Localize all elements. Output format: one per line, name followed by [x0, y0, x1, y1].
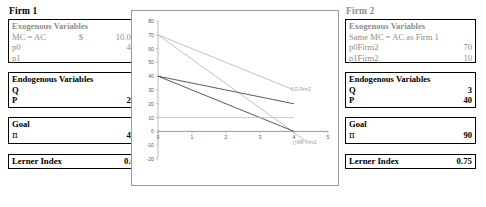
y-tick-label: 10 [148, 115, 154, 121]
x-tick-label: 1 [191, 134, 194, 140]
firm1-profit-label: π [12, 130, 18, 141]
series-line [158, 35, 306, 141]
y-tick-label: 70 [148, 32, 154, 38]
y-tick-label: 40 [148, 73, 154, 79]
firm2-p-value: 40 [463, 95, 472, 106]
firm2-lerner-box: Lerner Index 0.75 [345, 154, 476, 169]
firm2-profit-label: π [349, 130, 355, 141]
x-tick-label: 5 [327, 134, 330, 140]
firm1-title: Firm 1 [9, 6, 139, 17]
firm2-q-value: 3 [468, 85, 472, 96]
firm2-endogenous-header-label: Endogenous Variables [349, 74, 430, 85]
chart-svg: 80706050403020100-10-20 012345 D Firm2MR… [132, 11, 338, 185]
y-tick-label: 0 [151, 128, 154, 134]
firm2-exogenous-row: Same MC = AC as Firm 1 [349, 32, 472, 43]
firm1-goal-header-label: Goal [12, 119, 30, 130]
y-tick-label: 50 [148, 59, 154, 65]
series-label-group: D Firm2 [291, 87, 311, 92]
firm1-exogenous-header-label: Exogenous Variables [12, 21, 88, 32]
firm1-p0-label: p0 [12, 42, 21, 53]
firm2-endogenous-row: P 40 [349, 95, 472, 106]
y-tick-label: 80 [148, 18, 154, 24]
chart-x-axis-ticks: 012345 [157, 131, 330, 140]
firm2-p0-label: p0Firm2 [349, 42, 379, 53]
firm1-p-label: P [12, 95, 17, 106]
firm1-endogenous-row: Q 3 [12, 85, 135, 96]
firm2-profit-value: 90 [463, 130, 472, 141]
y-tick-label: 20 [148, 101, 154, 107]
firm1-goal-header: Goal [12, 119, 135, 130]
firm2-goal-row: π 90 [349, 130, 472, 141]
firm2-endogenous-row: Q 3 [349, 85, 472, 96]
series-label-text: MR Firm2 [297, 140, 318, 145]
series-line [158, 35, 294, 90]
firm2-p1-label: p1Firm2 [349, 53, 379, 64]
firm-comparison-screen: Firm 1 Exogenous Variables MC = AC $ 10.… [0, 0, 486, 207]
firm1-lerner-box: Lerner Index 0.6 [8, 154, 139, 169]
firm2-goal-header: Goal [349, 119, 472, 130]
firm1-goal-box: Goal π 45 [8, 117, 139, 144]
y-tick-label: 60 [148, 46, 154, 52]
firm1-endogenous-header-label: Endogenous Variables [12, 74, 93, 85]
y-tick-label: -10 [147, 142, 155, 148]
firm1-panel: Firm 1 Exogenous Variables MC = AC $ 10.… [8, 0, 139, 169]
demand-marginal-revenue-chart: 80706050403020100-10-20 012345 D Firm2MR… [131, 10, 339, 186]
firm2-exogenous-row: p1Firm2 10 [349, 53, 472, 64]
firm2-endogenous-box: Endogenous Variables Q 3 P 40 [345, 72, 476, 108]
series-line [158, 76, 294, 131]
firm2-exogenous-box: Exogenous Variables Same MC = AC as Firm… [345, 19, 476, 63]
firm2-goal-header-label: Goal [349, 119, 367, 130]
x-tick-label: 3 [259, 134, 262, 140]
firm2-lerner-label: Lerner Index [349, 156, 399, 166]
x-tick-label: 0 [157, 134, 160, 140]
series-label-text: D Firm2 [295, 87, 312, 92]
chart-series [158, 35, 306, 141]
firm1-endogenous-box: Endogenous Variables Q 3 P 25 [8, 72, 139, 108]
firm2-p0-value[interactable]: 70 [463, 42, 472, 53]
firm2-goal-box: Goal π 90 [345, 117, 476, 144]
x-tick-label: 2 [225, 134, 228, 140]
series-line [158, 76, 294, 104]
firm1-exogenous-row: p1 5 [12, 53, 135, 64]
firm1-mcac-currency: $ [46, 32, 116, 43]
firm2-p-label: P [349, 95, 354, 106]
firm1-endogenous-row: P 25 [12, 95, 135, 106]
firm2-mcac-label: Same MC = AC as Firm 1 [349, 32, 439, 43]
firm1-exogenous-row: MC = AC $ 10.00 [12, 32, 135, 43]
firm2-exogenous-header-label: Exogenous Variables [349, 21, 425, 32]
series-marker-icon [293, 142, 296, 145]
firm2-endogenous-header: Endogenous Variables [349, 74, 472, 85]
chart-y-axis-ticks: 80706050403020100-10-20 [147, 18, 159, 162]
firm1-q-label: Q [12, 85, 19, 96]
x-tick-label: 4 [293, 134, 296, 140]
firm1-exogenous-row: p0 40 [12, 42, 135, 53]
firm2-q-label: Q [349, 85, 356, 96]
firm2-title: Firm 2 [346, 6, 476, 17]
firm2-exogenous-row: p0Firm2 70 [349, 42, 472, 53]
series-label-group: MR Firm2 [293, 140, 317, 145]
firm1-p1-label: p1 [12, 53, 21, 64]
firm1-goal-row: π 45 [12, 130, 135, 141]
firm2-p1-value[interactable]: 10 [463, 53, 472, 64]
firm1-endogenous-header: Endogenous Variables [12, 74, 135, 85]
firm2-lerner-value: 0.75 [457, 156, 472, 166]
firm1-exogenous-header: Exogenous Variables [12, 21, 135, 32]
y-tick-label: -20 [147, 156, 155, 162]
y-tick-label: 30 [148, 87, 154, 93]
firm1-exogenous-box: Exogenous Variables MC = AC $ 10.00 p0 4… [8, 19, 139, 63]
firm1-mcac-label: MC = AC [12, 32, 46, 43]
firm1-lerner-label: Lerner Index [12, 156, 62, 166]
firm2-exogenous-header: Exogenous Variables [349, 21, 472, 32]
firm2-panel: Firm 2 Exogenous Variables Same MC = AC … [345, 0, 476, 169]
